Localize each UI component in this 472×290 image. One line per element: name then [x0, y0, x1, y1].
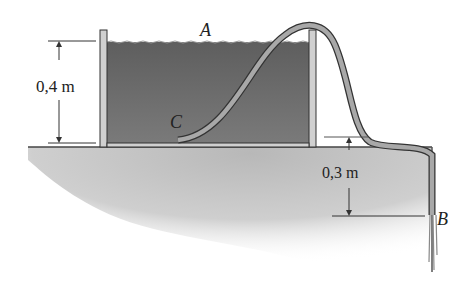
dimension-water-depth: 0,4 m	[36, 41, 96, 143]
tank-right-wall	[309, 30, 316, 147]
label-outlet-drop: 0,3 m	[322, 164, 359, 181]
siphon-diagram: 0,4 m 0,3 m A C B	[0, 0, 472, 290]
tank-bottom	[107, 143, 309, 147]
ground	[28, 147, 432, 272]
tank-left-wall	[100, 30, 107, 147]
label-point-a: A	[199, 20, 212, 40]
label-point-b: B	[437, 209, 448, 229]
label-point-c: C	[170, 112, 183, 132]
label-water-depth: 0,4 m	[36, 77, 75, 96]
